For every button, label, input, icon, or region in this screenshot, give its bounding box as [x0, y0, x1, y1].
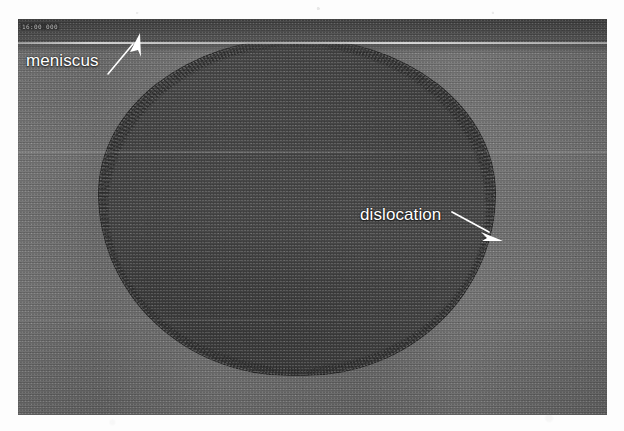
scanned-figure-page: 16:00 000 meniscus dislocation — [0, 0, 624, 431]
micrograph-image: 16:00 000 — [18, 19, 607, 415]
annotation-label-dislocation: dislocation — [360, 205, 441, 224]
annotation-label-meniscus: meniscus — [26, 51, 99, 70]
meniscus-band-grain — [18, 19, 607, 43]
meniscus-band — [18, 19, 607, 43]
sub-meniscus-shadow — [18, 44, 607, 53]
instrument-stamp: 16:00 000 — [21, 23, 59, 30]
illumination-banding — [18, 19, 607, 415]
meniscus-band-scanlines — [18, 19, 607, 43]
